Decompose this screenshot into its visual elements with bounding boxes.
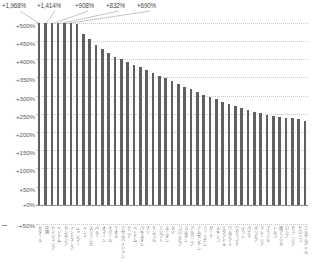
bar bbox=[183, 87, 186, 205]
y-tick-400: +400% bbox=[1, 59, 35, 65]
bar bbox=[190, 89, 193, 205]
bar bbox=[158, 76, 161, 205]
x-axis-label: トルコ bbox=[271, 226, 275, 267]
bar bbox=[63, 23, 66, 205]
x-axis-label: カンボジア bbox=[62, 226, 66, 267]
bar bbox=[139, 67, 142, 205]
bar bbox=[177, 84, 180, 205]
x-axis-label: ネパール bbox=[107, 226, 111, 267]
bar bbox=[82, 34, 85, 205]
x-axis-label: ウルグアイ bbox=[227, 226, 231, 267]
bar bbox=[202, 95, 205, 205]
x-axis-label: パキスタン bbox=[138, 226, 142, 267]
x-axis-label: オマーン bbox=[100, 226, 104, 267]
bar bbox=[285, 118, 288, 205]
bar bbox=[76, 24, 79, 205]
x-axis-label: イラン bbox=[239, 226, 243, 267]
y-tick-300: +300% bbox=[1, 96, 35, 102]
x-axis-label: メキシコ bbox=[214, 226, 218, 267]
negative-tick-dash bbox=[2, 225, 7, 226]
bar bbox=[101, 49, 104, 205]
bar bbox=[221, 102, 224, 205]
bar-cell bbox=[302, 23, 308, 205]
zero-axis-line bbox=[36, 205, 308, 206]
x-axis-label: モロッコ bbox=[296, 226, 300, 267]
bar bbox=[70, 23, 73, 205]
x-axis-label: ペルー bbox=[94, 226, 98, 267]
bar bbox=[51, 23, 54, 205]
bar bbox=[196, 92, 199, 205]
bar bbox=[107, 53, 110, 205]
plot-area bbox=[36, 23, 308, 205]
bar bbox=[240, 108, 243, 205]
bar bbox=[234, 106, 237, 205]
bar bbox=[215, 99, 218, 205]
x-axis-label: アゼルバイジャン bbox=[119, 226, 123, 267]
x-label-cell: エルサルバドル bbox=[302, 226, 308, 267]
x-axis-label: ロシア bbox=[284, 226, 288, 267]
x-axis-label: ケニア bbox=[126, 226, 130, 267]
x-axis-label: モンゴル bbox=[151, 226, 155, 267]
x-axis-label: アルバニア bbox=[189, 226, 193, 267]
y-tick-350: +350% bbox=[1, 77, 35, 83]
x-axis-label: ミャンマー bbox=[75, 226, 79, 267]
x-axis-label: 南アフリカ bbox=[277, 226, 281, 267]
bar bbox=[171, 81, 174, 205]
y-tick-250: +250% bbox=[1, 114, 35, 120]
x-axis-label: エクアドル bbox=[220, 226, 224, 267]
x-axis-label: カタール bbox=[37, 226, 41, 267]
x-axis-label: ボリビア bbox=[252, 226, 256, 267]
bar bbox=[209, 97, 212, 205]
y-tick-200: +200% bbox=[1, 132, 35, 138]
x-axis-label: パナマ bbox=[246, 226, 250, 267]
y-tick-450: +450% bbox=[1, 41, 35, 47]
bar bbox=[133, 65, 136, 205]
x-axis-label: エルサルバドル bbox=[303, 226, 307, 267]
bar bbox=[44, 23, 47, 205]
bar bbox=[259, 113, 262, 205]
y-tick-50: +50% bbox=[1, 187, 35, 193]
x-axis-label: コロンビア bbox=[176, 226, 180, 267]
x-axis-label: ナイジェリア bbox=[50, 226, 54, 267]
bar bbox=[291, 118, 294, 205]
bar bbox=[253, 112, 256, 205]
x-axis-label: チリ bbox=[145, 226, 149, 267]
x-axis-label: インド bbox=[81, 226, 85, 267]
y-tick-100: +100% bbox=[1, 168, 35, 174]
bar bbox=[272, 116, 275, 205]
x-axis-label: スリランカ bbox=[88, 226, 92, 267]
bar-series bbox=[36, 23, 308, 205]
bar bbox=[57, 23, 60, 205]
x-axis-label: アルゼンチン bbox=[195, 226, 199, 267]
x-axis-label: 中国 bbox=[43, 226, 47, 267]
bar bbox=[278, 117, 281, 205]
bar bbox=[228, 104, 231, 205]
x-axis-label: ウクライナ bbox=[233, 226, 237, 267]
bar bbox=[114, 57, 117, 206]
bar bbox=[152, 73, 155, 205]
y-tick-150: +150% bbox=[1, 150, 35, 156]
bar bbox=[164, 78, 167, 205]
x-axis-label: タイ bbox=[170, 226, 174, 267]
bar-chart: +1,968% +1,414% +908% +832% +690% +500% … bbox=[0, 0, 313, 267]
y-axis: +500% +450% +400% +350% +300% +250% +200… bbox=[0, 23, 35, 233]
x-axis-label: ブラジル bbox=[265, 226, 269, 267]
x-axis-label: フィリピン bbox=[201, 226, 205, 267]
x-axis-label: インドネシア bbox=[69, 226, 73, 267]
bar bbox=[145, 70, 148, 205]
bar bbox=[120, 59, 123, 205]
x-axis-label: エジプト bbox=[157, 226, 161, 267]
bar bbox=[297, 119, 300, 205]
x-axis-label: ベトナム bbox=[132, 226, 136, 267]
y-tick-0: +0% bbox=[1, 202, 35, 208]
bar bbox=[88, 39, 91, 205]
x-axis-label: ラオス bbox=[113, 226, 117, 267]
bar bbox=[304, 121, 307, 205]
x-axis-label: ヨルダン bbox=[183, 226, 187, 267]
bar bbox=[95, 45, 98, 205]
x-axis-label: ベトナム bbox=[56, 226, 60, 267]
bar bbox=[247, 110, 250, 205]
bar bbox=[38, 23, 41, 205]
bar bbox=[266, 115, 269, 205]
bar bbox=[126, 62, 129, 205]
